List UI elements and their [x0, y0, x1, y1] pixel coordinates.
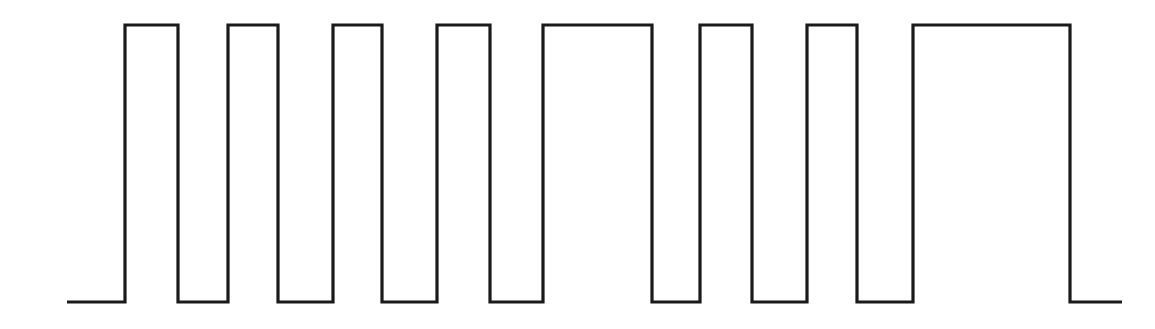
- chart-background: [0, 0, 1155, 329]
- waveform-chart: [0, 0, 1155, 329]
- waveform-page: [0, 0, 1155, 329]
